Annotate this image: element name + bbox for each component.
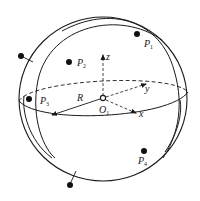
label-x: x (138, 108, 144, 119)
axis-x (106, 100, 136, 113)
center-point (100, 95, 105, 100)
label-p4: P4 (137, 155, 147, 167)
sphere-diagram: P1 P2 P3 P4 z y x R O1 (0, 0, 200, 201)
point-p4 (141, 148, 147, 154)
axis-y (106, 84, 146, 97)
label-z: z (105, 51, 110, 62)
label-p3: P3 (39, 95, 49, 107)
label-y: y (144, 83, 150, 94)
point-p3 (26, 96, 32, 102)
label-radius: R (76, 92, 83, 103)
point-p2 (66, 59, 72, 65)
label-p1: P1 (143, 38, 153, 50)
radius-line (52, 99, 100, 115)
label-center: O1 (99, 104, 109, 116)
point-p1 (134, 31, 140, 37)
label-p2: P2 (76, 57, 86, 69)
